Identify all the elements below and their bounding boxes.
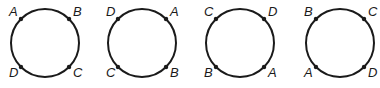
point-marker: [314, 17, 318, 21]
point-marker: [362, 17, 366, 21]
circle-figure-3: CDBA: [204, 4, 277, 80]
point-label: D: [9, 65, 18, 80]
point-label: D: [368, 65, 377, 80]
circles-diagram: ABDCDACBCDBABCAD: [0, 0, 380, 88]
circle-figure-2: DACB: [106, 4, 179, 80]
point-label: A: [267, 65, 277, 80]
point-label: B: [304, 4, 313, 19]
circle-figure-1: ABDC: [8, 4, 83, 80]
point-marker: [362, 65, 366, 69]
point-marker: [67, 17, 71, 21]
point-marker: [214, 17, 218, 21]
point-label: D: [106, 4, 115, 19]
point-label: B: [204, 65, 213, 80]
point-marker: [314, 65, 318, 69]
circle-figure-4: BCAD: [303, 4, 378, 80]
point-marker: [164, 65, 168, 69]
point-label: D: [268, 4, 277, 19]
point-label: C: [368, 4, 378, 19]
point-marker: [116, 17, 120, 21]
point-label: C: [106, 65, 116, 80]
point-label: A: [169, 4, 179, 19]
point-marker: [19, 17, 23, 21]
point-label: C: [73, 65, 83, 80]
point-marker: [67, 65, 71, 69]
point-label: B: [170, 65, 179, 80]
point-label: B: [73, 4, 82, 19]
point-marker: [262, 17, 266, 21]
point-marker: [262, 65, 266, 69]
point-marker: [164, 17, 168, 21]
point-label: A: [303, 65, 313, 80]
point-marker: [19, 65, 23, 69]
point-marker: [116, 65, 120, 69]
point-label: C: [204, 4, 214, 19]
point-marker: [214, 65, 218, 69]
point-label: A: [8, 4, 18, 19]
